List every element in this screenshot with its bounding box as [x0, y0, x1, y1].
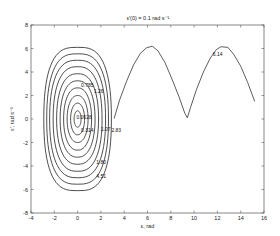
x-tick-label: 6	[146, 215, 149, 221]
y-tick-label: 2	[25, 93, 28, 99]
x-tick-label: -2	[52, 215, 57, 221]
figure-background	[0, 0, 280, 236]
y-tick-label: -8	[23, 210, 28, 216]
x-axis-label: ε, rad	[141, 223, 154, 229]
x-tick-label: 16	[261, 215, 267, 221]
contour-label: 2.83	[111, 127, 121, 133]
contour-label: 1.07	[101, 126, 111, 132]
x-tick-label: 14	[238, 215, 244, 221]
x-tick-label: -4	[29, 215, 34, 221]
y-axis-label: ε′, rad s⁻¹	[9, 107, 15, 131]
y-tick-label: 4	[25, 69, 28, 75]
y-tick-label: 0	[25, 116, 28, 122]
contour-label: 0.785	[81, 82, 94, 88]
x-tick-label: 4	[123, 215, 126, 221]
y-tick-label: -2	[23, 140, 28, 146]
x-tick-label: 0	[76, 215, 79, 221]
contour-label: 0.0628	[76, 114, 92, 120]
contour-label: 1.80	[96, 159, 106, 165]
contour-label: 6.14	[213, 51, 223, 57]
y-tick-label: 8	[25, 22, 28, 28]
x-tick-label: 10	[191, 215, 197, 221]
contour-label: 4.51	[96, 173, 106, 179]
chart-title: ε′(0) = 0.1 rad s⁻¹	[127, 15, 170, 21]
x-tick-label: 8	[169, 215, 172, 221]
y-tick-label: 6	[25, 46, 28, 52]
contour-label: 0.314	[81, 127, 94, 133]
phase-plane-chart: ε′(0) = 0.1 rad s⁻¹ 0.06280.3141.072.830…	[0, 0, 280, 236]
y-tick-label: -6	[23, 187, 28, 193]
x-tick-label: 12	[214, 215, 220, 221]
y-tick-label: -4	[23, 163, 28, 169]
contour-label: 1.26	[94, 88, 104, 94]
x-tick-label: 2	[99, 215, 102, 221]
